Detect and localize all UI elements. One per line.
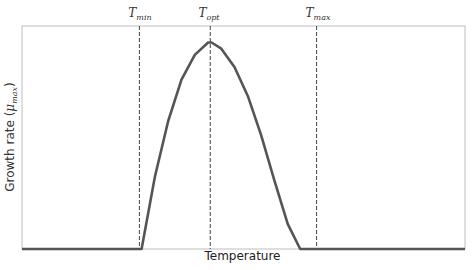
- y-axis-label-sub: max: [10, 87, 19, 104]
- y-axis-label-main: Growth rate (: [3, 112, 17, 192]
- topt-label-sub: opt: [206, 13, 219, 22]
- tmax-label-sub: max: [314, 13, 331, 22]
- x-axis-label: Temperature: [0, 249, 475, 263]
- tmin-label-sub: min: [136, 13, 151, 22]
- plot-frame: [22, 26, 465, 249]
- topt-label-main: T: [198, 6, 206, 20]
- growth-rate-curve: [22, 43, 465, 250]
- tmax-label-main: T: [306, 6, 314, 20]
- tmin-label: Tmin: [128, 6, 151, 22]
- tmin-label-main: T: [128, 6, 136, 20]
- topt-label: Topt: [198, 6, 219, 22]
- growth-rate-chart: [0, 0, 475, 270]
- y-axis-label: Growth rate (μmax): [3, 77, 21, 197]
- y-axis-label-close: ): [3, 82, 17, 87]
- y-axis-label-symbol: μ: [3, 104, 17, 112]
- tmax-label: Tmax: [306, 6, 331, 22]
